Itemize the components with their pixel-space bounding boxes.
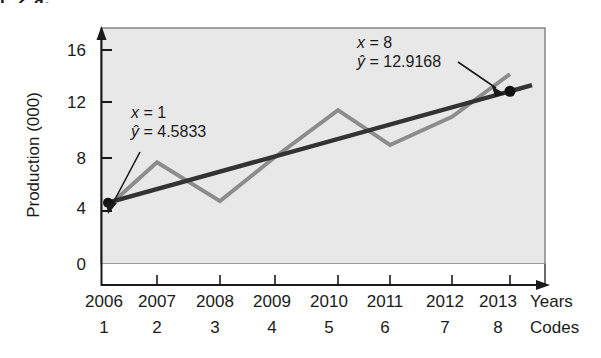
x-code-label-5: 5 bbox=[302, 319, 356, 336]
x-year-label-2011: 2011 bbox=[358, 293, 412, 310]
annotation-start-line1: x = 1 bbox=[131, 103, 206, 122]
x-code-label-3: 3 bbox=[188, 319, 242, 336]
x-year-label-2006: 2006 bbox=[77, 293, 131, 310]
x-axis-name-codes: Codes bbox=[530, 319, 579, 336]
annotation-end-value-x: = 8 bbox=[365, 34, 392, 51]
data-point-marker-end bbox=[505, 86, 516, 97]
x-year-label-2012: 2012 bbox=[418, 293, 472, 310]
plot-below-axis-fill bbox=[101, 264, 545, 286]
x-code-label-4: 4 bbox=[245, 319, 299, 336]
annotation-start-line2: ŷ = 4.5833 bbox=[131, 122, 206, 141]
annotation-end-var-yhat: ŷ bbox=[357, 53, 365, 70]
annotation-end-var-x: x bbox=[357, 34, 365, 51]
plot-right-border-lower bbox=[544, 264, 546, 286]
plot-background bbox=[101, 28, 545, 264]
x-year-label-2009: 2009 bbox=[245, 293, 299, 310]
x-year-label-2010: 2010 bbox=[302, 293, 356, 310]
figure-root: E 2 a. Production (000) 16 12 8 4 0 bbox=[0, 0, 601, 358]
x-code-label-6: 6 bbox=[358, 319, 412, 336]
annotation-start-var-yhat: ŷ bbox=[131, 123, 139, 140]
x-code-label-2: 2 bbox=[130, 319, 184, 336]
annotation-start-value-x: = 1 bbox=[139, 104, 166, 121]
x-code-label-7: 7 bbox=[418, 319, 472, 336]
annotation-end: x = 8 ŷ = 12.9168 bbox=[357, 33, 441, 71]
annotation-end-line2: ŷ = 12.9168 bbox=[357, 52, 441, 71]
x-code-label-8: 8 bbox=[471, 319, 525, 336]
annotation-end-value-yhat: = 12.9168 bbox=[365, 53, 441, 70]
x-year-label-2007: 2007 bbox=[130, 293, 184, 310]
x-code-label-1: 1 bbox=[77, 319, 131, 336]
annotation-start-value-yhat: = 4.5833 bbox=[139, 123, 206, 140]
x-axis-name-years: Years bbox=[530, 293, 573, 310]
annotation-start-var-x: x bbox=[131, 104, 139, 121]
annotation-end-line1: x = 8 bbox=[357, 33, 441, 52]
x-year-label-2013: 2013 bbox=[471, 293, 525, 310]
x-year-label-2008: 2008 bbox=[188, 293, 242, 310]
annotation-start: x = 1 ŷ = 4.5833 bbox=[131, 103, 206, 141]
